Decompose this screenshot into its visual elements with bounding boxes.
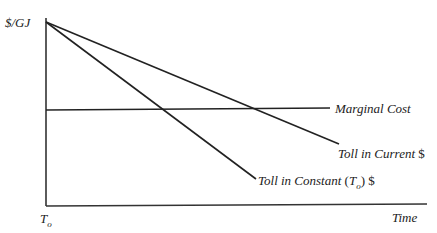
dollar-sign: $	[418, 146, 425, 161]
toll-current-text: Toll in Current	[338, 146, 415, 161]
origin-label: To	[40, 211, 52, 229]
y-axis-label: $/GJ	[5, 15, 30, 31]
toll-constant-text: Toll in Constant	[258, 173, 341, 188]
dollar-sign: $	[368, 173, 375, 188]
paren-close: )	[361, 173, 365, 188]
toll-constant-line	[46, 22, 256, 179]
x-axis-label: Time	[392, 210, 417, 226]
marginal-cost-line	[46, 108, 330, 110]
toll-diagram: $/GJ Marginal Cost Toll in Current $ Tol…	[0, 0, 437, 233]
toll-current-label: Toll in Current $	[338, 146, 425, 162]
origin-subscript: o	[47, 219, 52, 229]
marginal-cost-label: Marginal Cost	[335, 101, 411, 117]
toll-current-line	[46, 22, 339, 144]
x-axis	[46, 204, 427, 206]
toll-constant-label: Toll in Constant (To) $	[258, 173, 375, 191]
